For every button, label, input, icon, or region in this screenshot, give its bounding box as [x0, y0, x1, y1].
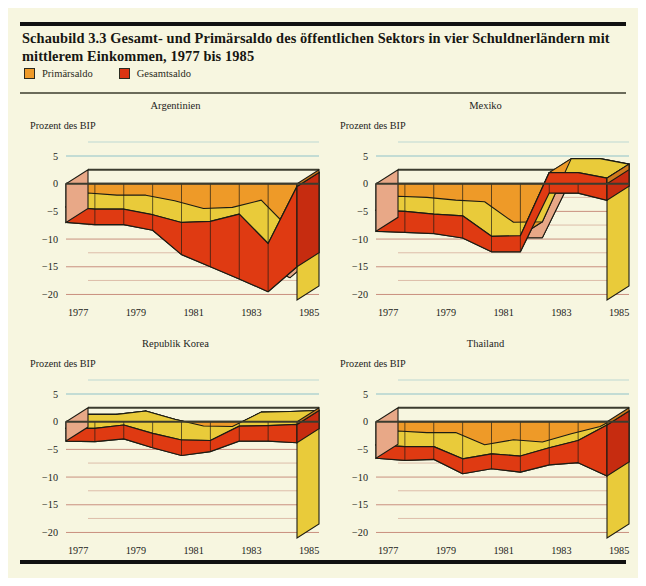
bottom-rule — [20, 560, 626, 564]
x-tick-label: 1977 — [68, 545, 88, 556]
y-tick-label: −5 — [47, 206, 58, 217]
x-tick-label: 1977 — [378, 307, 398, 318]
y-tick-label: −20 — [42, 289, 58, 300]
x-tick-label: 1985 — [609, 307, 629, 318]
y-tick-label: −15 — [352, 499, 368, 510]
x-tick-label: 1977 — [68, 307, 88, 318]
panel-republik-korea: Republik Korea Prozent des BIP 50−5−10−1… — [20, 338, 331, 570]
legend-swatch-gesamtsaldo — [119, 68, 130, 79]
y-tick-label: 0 — [53, 416, 58, 427]
y-tick-label: −5 — [47, 444, 58, 455]
x-tick-label: 1979 — [126, 307, 146, 318]
y-tick-label: 5 — [53, 389, 58, 400]
legend: Primärsaldo Gesamtsaldo — [24, 68, 191, 79]
x-tick-label: 1985 — [299, 307, 319, 318]
y-tick-label: 0 — [363, 178, 368, 189]
x-tick-label: 1981 — [183, 545, 203, 556]
x-tick-label: 1985 — [609, 545, 629, 556]
y-tick-label: −15 — [42, 261, 58, 272]
y-tick-label: −10 — [352, 234, 368, 245]
x-tick-label: 1983 — [241, 545, 261, 556]
header-divider-rule — [20, 92, 626, 94]
x-tick-label: 1979 — [126, 545, 146, 556]
y-tick-label: −15 — [352, 261, 368, 272]
y-tick-label: 0 — [53, 178, 58, 189]
x-tick-label: 1981 — [493, 545, 513, 556]
x-tick-label: 1981 — [183, 307, 203, 318]
plot-mexiko: 50−5−10−15−2019771979198119831985 — [330, 130, 641, 330]
legend-swatch-primaersaldo — [24, 68, 35, 79]
legend-label-primaersaldo: Primärsaldo — [42, 68, 93, 79]
y-tick-label: 0 — [363, 416, 368, 427]
panel-title-mexiko: Mexiko — [330, 100, 641, 111]
x-tick-label: 1979 — [436, 307, 456, 318]
panel-title-republik-korea: Republik Korea — [20, 338, 331, 349]
y-tick-label: 5 — [53, 151, 58, 162]
y-tick-label: 5 — [363, 151, 368, 162]
x-tick-label: 1981 — [493, 307, 513, 318]
y-tick-label: −10 — [42, 472, 58, 483]
y-tick-label: −20 — [42, 527, 58, 538]
y-tick-label: −10 — [352, 472, 368, 483]
figure-title: Schaubild 3.3 Gesamt- und Primärsaldo de… — [22, 30, 626, 65]
panel-thailand: Thailand Prozent des BIP 50−5−10−15−2019… — [330, 338, 641, 570]
y-tick-label: −5 — [357, 444, 368, 455]
plot-argentinien: 50−5−10−15−2019771979198119831985 — [20, 130, 331, 330]
x-tick-label: 1983 — [551, 307, 571, 318]
x-tick-label: 1985 — [299, 545, 319, 556]
x-tick-label: 1983 — [241, 307, 261, 318]
plot-republik-korea: 50−5−10−15−2019771979198119831985 — [20, 368, 331, 568]
y-tick-label: −20 — [352, 527, 368, 538]
y-tick-label: −20 — [352, 289, 368, 300]
panel-title-thailand: Thailand — [330, 338, 641, 349]
x-tick-label: 1979 — [436, 545, 456, 556]
figure-container: Schaubild 3.3 Gesamt- und Primärsaldo de… — [8, 8, 638, 578]
legend-label-gesamtsaldo: Gesamtsaldo — [137, 68, 191, 79]
panel-mexiko: Mexiko Prozent des BIP 50−5−10−15−201977… — [330, 100, 641, 332]
legend-item-primaersaldo: Primärsaldo — [24, 68, 93, 79]
x-tick-label: 1983 — [551, 545, 571, 556]
panel-argentinien: Argentinien Prozent des BIP 50−5−10−15−2… — [20, 100, 331, 332]
y-tick-label: 5 — [363, 389, 368, 400]
y-tick-label: −15 — [42, 499, 58, 510]
y-tick-label: −5 — [357, 206, 368, 217]
legend-item-gesamtsaldo: Gesamtsaldo — [119, 68, 191, 79]
y-tick-label: −10 — [42, 234, 58, 245]
x-tick-label: 1977 — [378, 545, 398, 556]
panel-title-argentinien: Argentinien — [20, 100, 331, 111]
plot-thailand: 50−5−10−15−2019771979198119831985 — [330, 368, 641, 568]
top-rule — [20, 22, 626, 26]
